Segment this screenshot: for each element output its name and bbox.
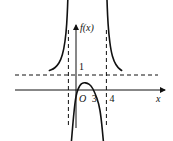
function-graph: f(x) x O 3 4 1 bbox=[0, 0, 173, 141]
x-axis-label: x bbox=[155, 93, 161, 104]
x-tick-label-3: 3 bbox=[92, 93, 97, 104]
y-tick-label-1: 1 bbox=[79, 61, 84, 72]
y-axis-label: f(x) bbox=[80, 22, 95, 34]
curve-right-branch bbox=[107, 0, 122, 71]
curve-left-branch bbox=[49, 0, 67, 71]
x-tick-label-4: 4 bbox=[109, 93, 114, 104]
origin-label: O bbox=[79, 93, 86, 104]
